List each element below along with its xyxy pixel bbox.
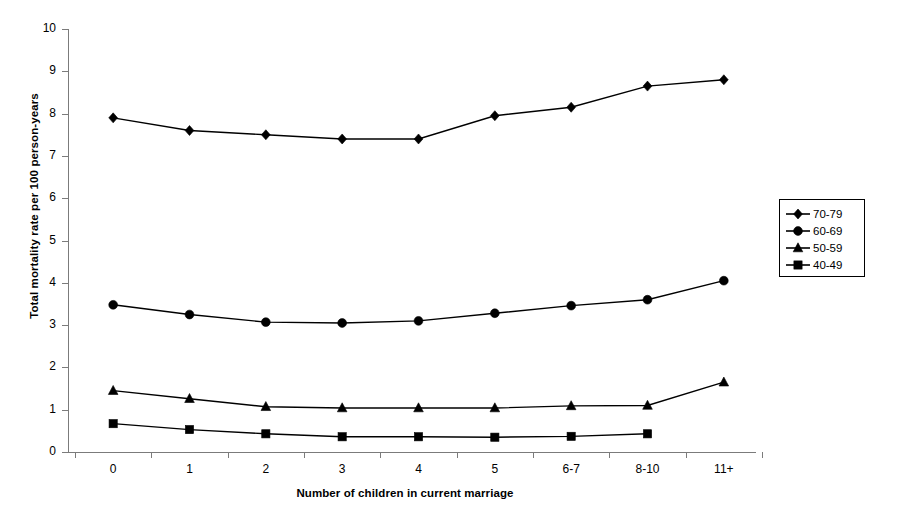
square-marker — [262, 430, 270, 438]
circle-marker — [414, 316, 423, 325]
diamond-marker — [261, 130, 270, 140]
legend-item-40-49[interactable]: 40-49 — [780, 256, 864, 273]
circle-marker — [185, 310, 194, 319]
circle-legend-icon — [785, 224, 811, 238]
square-marker — [491, 433, 499, 441]
triangle-legend-icon — [785, 241, 811, 255]
square-marker — [643, 430, 651, 438]
diamond-marker — [338, 134, 347, 144]
diamond-marker — [567, 102, 576, 112]
legend-label: 50-59 — [813, 241, 842, 255]
square-marker — [338, 433, 346, 441]
diamond-marker — [643, 81, 652, 91]
circle-marker — [261, 318, 270, 327]
diamond-marker — [794, 209, 803, 219]
legend-item-50-59[interactable]: 50-59 — [780, 239, 864, 256]
circle-marker — [643, 295, 652, 304]
square-legend-icon — [785, 258, 811, 272]
circle-marker — [109, 300, 118, 309]
circle-marker — [719, 276, 728, 285]
square-marker — [185, 425, 193, 433]
diamond-marker — [185, 126, 194, 136]
legend-label: 70-79 — [813, 207, 842, 221]
square-marker — [109, 420, 117, 428]
legend-box: 70-7960-6950-5940-49 — [779, 199, 865, 277]
circle-marker — [338, 319, 347, 328]
square-marker — [567, 432, 575, 440]
triangle-marker — [719, 377, 729, 386]
triangle-marker — [108, 385, 118, 394]
legend-label: 60-69 — [813, 224, 842, 238]
circle-marker — [490, 309, 499, 318]
square-marker — [794, 260, 802, 268]
diamond-marker — [719, 75, 728, 85]
chart-figure: 012345678910 0123456-78-1011+ Total mort… — [0, 0, 898, 516]
diamond-legend-icon — [785, 207, 811, 221]
legend-label: 40-49 — [813, 258, 842, 272]
legend-item-70-79[interactable]: 70-79 — [780, 205, 864, 222]
circle-marker — [794, 226, 803, 235]
diamond-marker — [490, 111, 499, 121]
series-line-70-79 — [113, 80, 724, 139]
legend-item-60-69[interactable]: 60-69 — [780, 222, 864, 239]
circle-marker — [567, 301, 576, 310]
series-plot — [0, 0, 898, 516]
diamond-marker — [414, 134, 423, 144]
square-marker — [414, 433, 422, 441]
diamond-marker — [109, 113, 118, 123]
